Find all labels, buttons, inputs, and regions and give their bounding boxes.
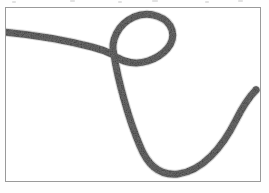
scan-artifact-mark <box>152 0 158 2</box>
scan-artifact-mark <box>238 0 243 2</box>
scan-artifact-mark <box>205 1 209 3</box>
rope-free-end <box>253 87 260 94</box>
scan-artifact-mark <box>70 0 75 2</box>
photo-frame <box>5 7 261 182</box>
rope-illustration <box>6 8 260 181</box>
scan-artifact-marks <box>0 0 269 7</box>
scan-artifact-mark <box>118 1 122 3</box>
scan-artifact-mark <box>12 1 16 3</box>
scanned-photo-page: Rope forming a single open loop braided … <box>0 0 269 193</box>
